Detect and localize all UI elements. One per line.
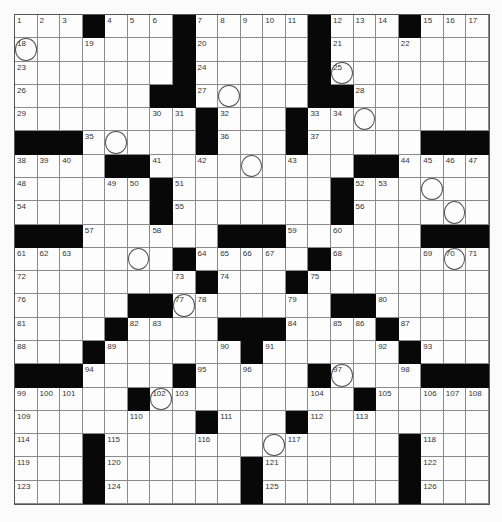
grid-cell[interactable] — [466, 178, 489, 201]
grid-cell[interactable] — [196, 225, 219, 248]
grid-cell[interactable] — [444, 457, 467, 480]
grid-cell[interactable] — [399, 271, 422, 294]
grid-cell[interactable]: 67 — [263, 248, 286, 271]
grid-cell[interactable] — [83, 62, 106, 85]
grid-cell[interactable]: 33 — [308, 108, 331, 131]
grid-cell[interactable] — [83, 201, 106, 224]
grid-cell[interactable] — [286, 62, 309, 85]
grid-cell[interactable] — [331, 388, 354, 411]
grid-cell[interactable] — [444, 411, 467, 434]
grid-cell[interactable] — [421, 178, 444, 201]
grid-cell[interactable] — [150, 62, 173, 85]
grid-cell[interactable] — [196, 318, 219, 341]
grid-cell[interactable] — [218, 201, 241, 224]
grid-cell[interactable] — [173, 457, 196, 480]
grid-cell[interactable] — [150, 457, 173, 480]
grid-cell[interactable] — [128, 434, 151, 457]
grid-cell[interactable]: 126 — [421, 481, 444, 504]
grid-cell[interactable] — [128, 131, 151, 154]
grid-cell[interactable] — [421, 271, 444, 294]
grid-cell[interactable]: 12 — [331, 15, 354, 38]
grid-cell[interactable] — [399, 108, 422, 131]
grid-cell[interactable] — [128, 85, 151, 108]
grid-cell[interactable] — [308, 178, 331, 201]
grid-cell[interactable] — [444, 434, 467, 457]
grid-cell[interactable] — [263, 294, 286, 317]
grid-cell[interactable] — [263, 178, 286, 201]
grid-cell[interactable] — [354, 38, 377, 61]
grid-cell[interactable] — [444, 201, 467, 224]
grid-cell[interactable]: 109 — [15, 411, 38, 434]
grid-cell[interactable]: 55 — [173, 201, 196, 224]
grid-cell[interactable]: 27 — [196, 85, 219, 108]
grid-cell[interactable] — [376, 457, 399, 480]
grid-cell[interactable]: 56 — [354, 201, 377, 224]
grid-cell[interactable] — [218, 38, 241, 61]
grid-cell[interactable] — [444, 271, 467, 294]
grid-cell[interactable] — [263, 85, 286, 108]
grid-cell[interactable] — [241, 411, 264, 434]
grid-cell[interactable] — [444, 85, 467, 108]
grid-cell[interactable] — [150, 38, 173, 61]
grid-cell[interactable]: 15 — [421, 15, 444, 38]
grid-cell[interactable] — [354, 434, 377, 457]
grid-cell[interactable]: 79 — [286, 294, 309, 317]
grid-cell[interactable] — [263, 108, 286, 131]
grid-cell[interactable] — [60, 38, 83, 61]
grid-cell[interactable] — [421, 411, 444, 434]
grid-cell[interactable] — [128, 108, 151, 131]
grid-cell[interactable] — [38, 457, 61, 480]
grid-cell[interactable]: 84 — [286, 318, 309, 341]
grid-cell[interactable] — [263, 411, 286, 434]
grid-cell[interactable]: 69 — [421, 248, 444, 271]
grid-cell[interactable] — [354, 457, 377, 480]
grid-cell[interactable] — [354, 341, 377, 364]
grid-cell[interactable]: 122 — [421, 457, 444, 480]
grid-cell[interactable] — [150, 131, 173, 154]
grid-cell[interactable]: 102 — [150, 388, 173, 411]
grid-cell[interactable]: 57 — [83, 225, 106, 248]
grid-cell[interactable] — [444, 38, 467, 61]
grid-cell[interactable]: 92 — [376, 341, 399, 364]
grid-cell[interactable] — [105, 225, 128, 248]
grid-cell[interactable] — [331, 434, 354, 457]
grid-cell[interactable] — [421, 108, 444, 131]
grid-cell[interactable]: 90 — [218, 341, 241, 364]
grid-cell[interactable]: 20 — [196, 38, 219, 61]
grid-cell[interactable]: 111 — [218, 411, 241, 434]
grid-cell[interactable] — [308, 457, 331, 480]
grid-cell[interactable] — [60, 318, 83, 341]
grid-cell[interactable]: 106 — [421, 388, 444, 411]
grid-cell[interactable]: 83 — [150, 318, 173, 341]
grid-cell[interactable] — [466, 481, 489, 504]
grid-cell[interactable] — [399, 248, 422, 271]
grid-cell[interactable] — [421, 318, 444, 341]
grid-cell[interactable] — [286, 201, 309, 224]
grid-cell[interactable] — [263, 131, 286, 154]
grid-cell[interactable]: 38 — [15, 155, 38, 178]
grid-cell[interactable] — [286, 85, 309, 108]
grid-cell[interactable] — [128, 481, 151, 504]
grid-cell[interactable] — [38, 481, 61, 504]
grid-cell[interactable] — [128, 364, 151, 387]
grid-cell[interactable]: 100 — [38, 388, 61, 411]
grid-cell[interactable] — [241, 201, 264, 224]
grid-cell[interactable]: 107 — [444, 388, 467, 411]
grid-cell[interactable] — [105, 62, 128, 85]
grid-cell[interactable] — [399, 131, 422, 154]
grid-cell[interactable]: 29 — [15, 108, 38, 131]
grid-cell[interactable]: 80 — [376, 294, 399, 317]
grid-cell[interactable] — [241, 434, 264, 457]
grid-cell[interactable] — [196, 341, 219, 364]
grid-cell[interactable] — [399, 294, 422, 317]
grid-cell[interactable] — [83, 248, 106, 271]
grid-cell[interactable]: 73 — [173, 271, 196, 294]
grid-cell[interactable]: 51 — [173, 178, 196, 201]
grid-cell[interactable] — [83, 388, 106, 411]
grid-cell[interactable]: 43 — [286, 155, 309, 178]
grid-cell[interactable] — [354, 481, 377, 504]
grid-cell[interactable] — [218, 178, 241, 201]
grid-cell[interactable]: 25 — [331, 62, 354, 85]
grid-cell[interactable] — [38, 108, 61, 131]
grid-cell[interactable] — [105, 294, 128, 317]
